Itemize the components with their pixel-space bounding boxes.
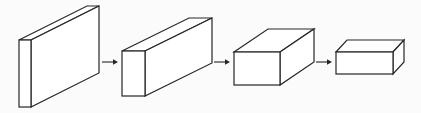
arrow-head-icon — [327, 59, 332, 65]
block-flow-diagram — [0, 0, 421, 113]
arrow-3 — [316, 59, 332, 65]
arrow-head-icon — [113, 59, 118, 65]
block-front-face — [234, 52, 280, 85]
arrow-2 — [214, 59, 230, 65]
blocks-layer — [19, 6, 404, 107]
block-4 — [336, 40, 404, 74]
arrow-head-icon — [225, 59, 230, 65]
arrow-1 — [102, 59, 118, 65]
block-top-face — [336, 40, 404, 52]
block-front-face — [336, 52, 393, 74]
block-2 — [122, 18, 212, 96]
block-1 — [19, 6, 99, 107]
block-3 — [234, 29, 314, 85]
block-front-face — [122, 51, 145, 96]
diagram-canvas — [0, 0, 421, 113]
block-front-face — [19, 40, 31, 107]
